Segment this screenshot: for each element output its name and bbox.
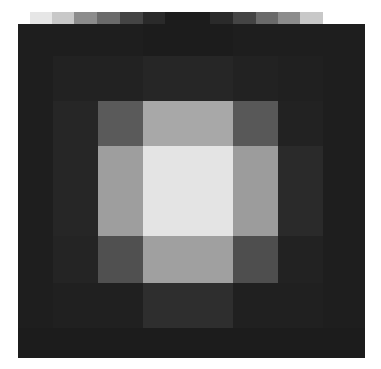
heatmap-cell: [233, 24, 278, 56]
strip-segment: [210, 12, 233, 24]
heatmap-cell: [278, 56, 323, 101]
heatmap-cell: [53, 146, 98, 191]
heatmap-cell: [53, 236, 98, 283]
heatmap-cell: [278, 24, 323, 56]
heatmap-cell: [278, 236, 323, 283]
heatmap-cell: [53, 24, 98, 56]
strip-segment: [30, 12, 52, 24]
heatmap-cell: [233, 56, 278, 101]
heatmap-cell: [18, 146, 53, 191]
heatmap-cell: [323, 24, 365, 56]
heatmap-cell: [233, 146, 278, 191]
heatmap-grid: [18, 24, 365, 358]
heatmap-cell: [233, 101, 278, 146]
heatmap-cell: [143, 146, 188, 191]
heatmap-cell: [323, 236, 365, 283]
heatmap-cell: [233, 191, 278, 236]
heatmap-cell: [188, 328, 233, 358]
heatmap-cell: [18, 236, 53, 283]
heatmap-cell: [323, 283, 365, 328]
heatmap-cell: [98, 24, 143, 56]
heatmap-cell: [18, 191, 53, 236]
heatmap-cell: [53, 191, 98, 236]
heatmap-cell: [278, 101, 323, 146]
heatmap-cell: [53, 101, 98, 146]
heatmap-cell: [323, 56, 365, 101]
strip-segment: [74, 12, 97, 24]
heatmap-cell: [143, 328, 188, 358]
heatmap-cell: [233, 328, 278, 358]
heatmap-cell: [18, 101, 53, 146]
heatmap-cell: [143, 191, 188, 236]
heatmap-cell: [188, 24, 233, 56]
heatmap-cell: [278, 146, 323, 191]
heatmap-cell: [98, 101, 143, 146]
heatmap-cell: [278, 328, 323, 358]
heatmap-cell: [98, 146, 143, 191]
heatmap-cell: [323, 191, 365, 236]
heatmap-cell: [188, 191, 233, 236]
top-gradient-strip: [30, 12, 323, 24]
heatmap-cell: [143, 236, 188, 283]
heatmap-cell: [18, 56, 53, 101]
heatmap-cell: [98, 191, 143, 236]
strip-segment: [278, 12, 300, 24]
heatmap-cell: [188, 283, 233, 328]
heatmap-cell: [143, 56, 188, 101]
heatmap-cell: [233, 236, 278, 283]
heatmap-cell: [18, 24, 53, 56]
heatmap-cell: [53, 56, 98, 101]
heatmap-cell: [98, 283, 143, 328]
strip-segment: [165, 12, 210, 24]
heatmap-cell: [323, 328, 365, 358]
heatmap-cell: [233, 283, 278, 328]
heatmap-cell: [143, 101, 188, 146]
heatmap-cell: [278, 191, 323, 236]
heatmap-cell: [18, 283, 53, 328]
heatmap-cell: [188, 146, 233, 191]
heatmap-cell: [98, 328, 143, 358]
strip-segment: [52, 12, 74, 24]
heatmap-cell: [323, 101, 365, 146]
strip-segment: [300, 12, 323, 24]
heatmap-cell: [98, 236, 143, 283]
strip-segment: [97, 12, 120, 24]
heatmap-cell: [143, 283, 188, 328]
heatmap-cell: [323, 146, 365, 191]
strip-segment: [120, 12, 143, 24]
heatmap-cell: [188, 236, 233, 283]
heatmap-cell: [188, 101, 233, 146]
heatmap-cell: [278, 283, 323, 328]
strip-segment: [143, 12, 165, 24]
heatmap-cell: [18, 328, 53, 358]
strip-segment: [233, 12, 256, 24]
heatmap-cell: [53, 328, 98, 358]
heatmap-cell: [98, 56, 143, 101]
heatmap-cell: [188, 56, 233, 101]
heatmap-cell: [53, 283, 98, 328]
heatmap-cell: [143, 24, 188, 56]
strip-segment: [256, 12, 278, 24]
